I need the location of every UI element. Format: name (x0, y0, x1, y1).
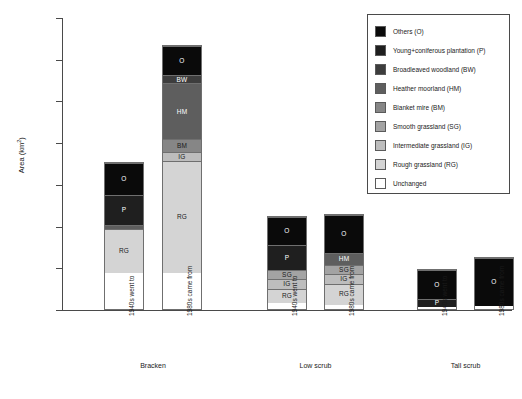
stacked-bar[interactable]: RGPO (104, 162, 144, 310)
legend-item[interactable]: Unchanged (375, 174, 509, 193)
bar-segment-label: P (122, 207, 127, 214)
legend-item[interactable]: Intermediate grassland (IG) (375, 136, 509, 155)
bar-segment-hm[interactable]: HM (325, 253, 363, 265)
legend-item-label: Smooth grassland (SG) (393, 123, 461, 130)
bar-segment-unchanged[interactable] (325, 305, 363, 309)
bar-segment-label: O (434, 282, 439, 289)
bar-segment-unchanged[interactable] (163, 273, 201, 309)
legend-item-label: Blanket mire (BM) (393, 104, 445, 111)
legend-item[interactable]: Heather moorland (HM) (375, 79, 509, 98)
legend-swatch-icon (375, 102, 386, 113)
bar-segment-rg[interactable]: RG (163, 161, 201, 273)
bar-segment-unchanged[interactable] (268, 303, 306, 309)
legend-item[interactable]: Blanket mire (BM) (375, 98, 509, 117)
stacked-bar[interactable]: RGIGSGPO (267, 216, 307, 310)
legend-item-label: Others (O) (393, 28, 424, 35)
bar-segment-o[interactable]: O (268, 217, 306, 245)
x-axis-tick-label: 1980s came from (186, 266, 193, 316)
bar-segment-p[interactable]: P (418, 299, 456, 307)
bar-segment-label: O (121, 176, 126, 183)
x-axis-tick-label: 1940s went to (128, 276, 135, 316)
x-axis-tick-label: 1980s came from (348, 266, 355, 316)
x-axis-group-label: Low scrub (286, 362, 346, 371)
y-axis-title: Area (km2) (16, 120, 27, 190)
bar-segment-p[interactable]: P (105, 195, 143, 225)
bar-segment-rg[interactable]: RG (105, 229, 143, 273)
bar-segment-sg[interactable]: SG (268, 270, 306, 279)
y-axis-title-text: Area (km (17, 143, 26, 173)
bar-segment-label: IG (283, 281, 290, 288)
bar-segment-rg[interactable]: RG (268, 289, 306, 303)
legend-item[interactable]: Broadleaved woodland (BW) (375, 60, 509, 79)
legend-item-label: Rough grassland (RG) (393, 161, 458, 168)
bar-segment-label: IG (340, 276, 347, 283)
bar-segment-sg[interactable]: SG (325, 265, 363, 274)
bar-segment-label: O (491, 279, 496, 286)
stacked-bar[interactable]: O (474, 257, 514, 310)
x-axis-tick-label: 1940s went to (441, 276, 448, 316)
y-axis-title-tail: ) (17, 137, 26, 140)
legend-item-label: Heather moorland (HM) (393, 85, 461, 92)
bar-segment-o[interactable]: O (163, 46, 201, 75)
legend-item-label: Intermediate grassland (IG) (393, 142, 472, 149)
bar-segment-label: O (179, 58, 184, 65)
legend: Others (O)Young+coniferous plantation (P… (367, 14, 510, 194)
bar-segment-label: HM (177, 109, 188, 116)
bar-segment-label: O (284, 228, 289, 235)
legend-swatch-icon (375, 83, 386, 94)
bar-segment-label: BM (177, 143, 187, 150)
legend-swatch-icon (375, 26, 386, 37)
y-axis-tick (56, 310, 62, 311)
legend-item-label: Broadleaved woodland (BW) (393, 66, 476, 73)
legend-item[interactable]: Rough grassland (RG) (375, 155, 509, 174)
legend-swatch-icon (375, 159, 386, 170)
x-axis-tick-label: 1980s came from (498, 266, 505, 316)
bar-segment-ig[interactable]: IG (325, 274, 363, 283)
bar-segment-hm[interactable]: HM (163, 83, 201, 139)
x-axis-group-label: Bracken (123, 362, 183, 371)
legend-swatch-icon (375, 45, 386, 56)
bar-segment-unchanged[interactable] (475, 306, 513, 309)
bar-segment-ig[interactable]: IG (163, 152, 201, 161)
legend-item[interactable]: Young+coniferous plantation (P) (375, 41, 509, 60)
stacked-bar[interactable]: RGIGSGHMO (324, 214, 364, 310)
legend-item-label: Unchanged (393, 180, 426, 187)
bar-segment-p[interactable]: P (268, 245, 306, 271)
bar-segment-o[interactable]: O (418, 270, 456, 299)
legend-swatch-icon (375, 64, 386, 75)
bar-segment-bw[interactable]: BW (163, 75, 201, 83)
bar-segment-label: RG (119, 248, 129, 255)
bar-segment-label: HM (339, 256, 350, 263)
bar-segment-hm[interactable] (105, 225, 143, 229)
bar-segment-unchanged[interactable] (418, 307, 456, 309)
stacked-bar[interactable]: RGIGBMHMBWO (162, 45, 202, 310)
legend-item[interactable]: Others (O) (375, 22, 509, 41)
bar-segment-label: P (285, 255, 290, 262)
bar-segment-label: RG (177, 214, 187, 221)
bar-segment-o[interactable]: O (325, 215, 363, 253)
bar-segment-unchanged[interactable] (105, 273, 143, 309)
bar-segment-rg[interactable]: RG (325, 284, 363, 305)
bar-segment-o[interactable]: O (105, 163, 143, 195)
legend-swatch-icon (375, 140, 386, 151)
bar-segment-ig[interactable]: IG (268, 279, 306, 288)
bar-segment-label: O (341, 231, 346, 238)
bar-segment-o[interactable]: O (475, 258, 513, 306)
bar-segment-label: IG (178, 154, 185, 161)
legend-item-label: Young+coniferous plantation (P) (393, 47, 485, 54)
legend-swatch-icon (375, 121, 386, 132)
bar-segment-bm[interactable]: BM (163, 139, 201, 151)
stacked-bar[interactable]: PO (417, 269, 457, 310)
legend-swatch-icon (375, 178, 386, 189)
x-axis-group-label: Tall scrub (436, 362, 496, 371)
legend-item[interactable]: Smooth grassland (SG) (375, 117, 509, 136)
bar-segment-label: P (435, 300, 440, 307)
chart-container: 1,4001,2001,0008006004002000 Area (km2) … (0, 0, 522, 399)
bar-segment-label: BW (177, 77, 188, 84)
x-axis-tick-label: 1940s went to (291, 276, 298, 316)
